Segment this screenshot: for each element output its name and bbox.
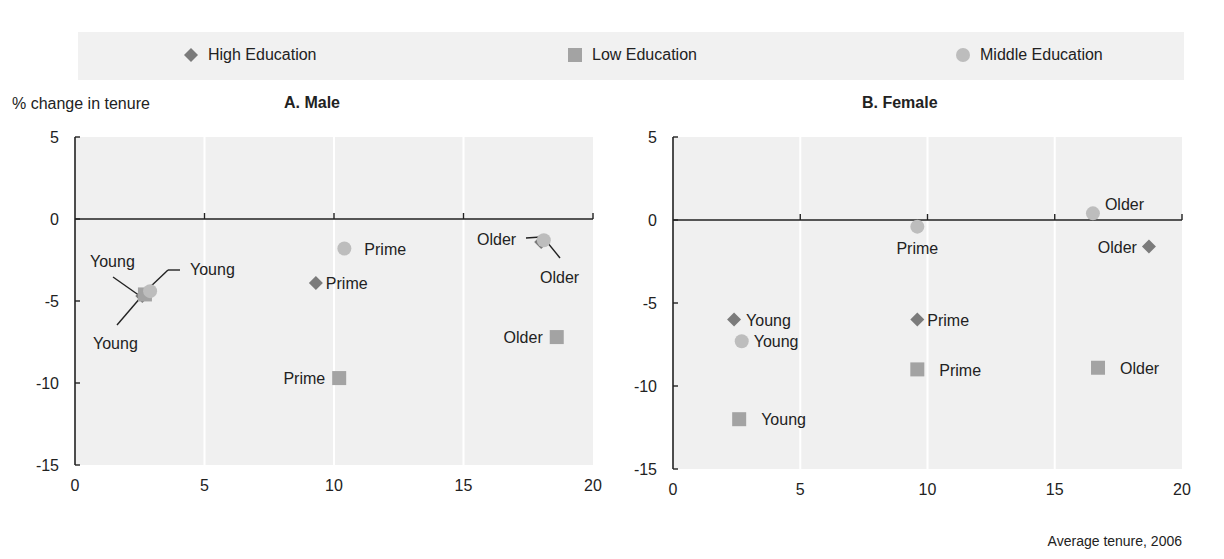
point-label: Young (761, 411, 806, 428)
y-tick-label: 0 (648, 212, 657, 229)
point-label: Young (190, 261, 235, 278)
point-label: Prime (927, 312, 969, 329)
point-label: Older (1120, 360, 1160, 377)
low-education-young-marker (732, 412, 746, 426)
low-education-prime-marker (332, 371, 346, 385)
point-label: Older (1105, 196, 1145, 213)
middle-education-prime-marker (337, 242, 351, 256)
point-label: Older (1098, 239, 1138, 256)
point-label: Prime (939, 362, 981, 379)
point-label: Young (90, 253, 135, 270)
middle-education-young-marker (735, 334, 749, 348)
y-tick-label: -15 (634, 461, 657, 478)
middle-education-prime-marker (910, 220, 924, 234)
scatter-charts: 50-5-10-1505101520YoungYoungYoungOlderOl… (0, 0, 1224, 559)
x-tick-label: 15 (1046, 481, 1064, 498)
middle-education-young-marker (143, 284, 157, 298)
x-tick-label: 0 (669, 481, 678, 498)
middle-education-older-marker (1086, 206, 1100, 220)
y-tick-label: -5 (45, 293, 59, 310)
x-tick-label: 10 (325, 477, 343, 494)
y-tick-label: -5 (643, 295, 657, 312)
low-education-older-marker (550, 330, 564, 344)
y-tick-label: -10 (36, 375, 59, 392)
point-label: Young (746, 312, 791, 329)
point-label: Young (93, 335, 138, 352)
point-label: Older (540, 269, 580, 286)
point-label: Prime (364, 241, 406, 258)
chart-panel-female: 50-5-10-1505101520YoungPrimeOlderYoungPr… (634, 129, 1191, 498)
y-tick-label: 5 (50, 129, 59, 146)
x-tick-label: 5 (200, 477, 209, 494)
y-tick-label: -15 (36, 457, 59, 474)
point-label: Prime (283, 370, 325, 387)
point-label: Prime (896, 240, 938, 257)
low-education-older-marker (1091, 361, 1105, 375)
y-tick-label: 5 (648, 129, 657, 146)
x-tick-label: 0 (71, 477, 80, 494)
low-education-prime-marker (910, 362, 924, 376)
x-tick-label: 5 (796, 481, 805, 498)
x-tick-label: 20 (1173, 481, 1191, 498)
x-tick-label: 10 (919, 481, 937, 498)
chart-panel-male: 50-5-10-1505101520YoungYoungYoungOlderOl… (36, 129, 602, 494)
x-tick-label: 15 (455, 477, 473, 494)
y-tick-label: 0 (50, 211, 59, 228)
point-label: Older (477, 231, 517, 248)
middle-education-older-marker (537, 233, 551, 247)
point-label: Young (754, 333, 799, 350)
y-tick-label: -10 (634, 378, 657, 395)
x-tick-label: 20 (584, 477, 602, 494)
point-label: Prime (326, 275, 368, 292)
point-label: Older (504, 329, 544, 346)
